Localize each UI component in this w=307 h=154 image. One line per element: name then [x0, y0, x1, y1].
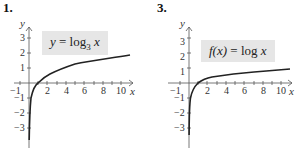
- svg-text:y: y: [19, 17, 25, 29]
- panel-1: 1. −1246810 321−1−2−3 xy y = log3 x: [0, 0, 153, 154]
- svg-text:3: 3: [20, 32, 25, 43]
- svg-text:8: 8: [101, 85, 106, 96]
- svg-text:10: 10: [276, 85, 286, 96]
- formula-box: f(x) = log x: [201, 40, 275, 62]
- svg-text:−2: −2: [14, 107, 25, 118]
- svg-text:8: 8: [261, 85, 266, 96]
- svg-text:−1: −1: [14, 92, 25, 103]
- svg-text:2: 2: [180, 51, 185, 62]
- svg-text:10: 10: [116, 85, 126, 96]
- svg-text:3: 3: [180, 36, 185, 47]
- svg-text:x: x: [288, 85, 294, 97]
- svg-text:2: 2: [45, 85, 50, 96]
- svg-text:4: 4: [64, 85, 69, 96]
- svg-text:4: 4: [224, 85, 229, 96]
- svg-text:−2: −2: [174, 107, 185, 118]
- svg-text:y: y: [179, 17, 185, 29]
- svg-text:1: 1: [20, 62, 25, 73]
- svg-text:1: 1: [180, 66, 185, 77]
- svg-text:2: 2: [20, 47, 25, 58]
- log10-chart: −1246810 321−1−2−3 xy: [154, 0, 307, 154]
- svg-text:x: x: [129, 85, 135, 97]
- svg-text:−1: −1: [174, 92, 185, 103]
- svg-text:6: 6: [242, 85, 247, 96]
- svg-text:6: 6: [82, 85, 87, 96]
- svg-text:−3: −3: [14, 122, 25, 133]
- svg-text:2: 2: [205, 85, 210, 96]
- formula-box: y = log3 x: [42, 31, 108, 55]
- svg-text:−3: −3: [174, 122, 185, 133]
- log3-chart: −1246810 321−1−2−3 xy: [0, 0, 153, 154]
- panel-3: 3. −1246810 321−1−2−3 xy f(x) = log x: [154, 0, 307, 154]
